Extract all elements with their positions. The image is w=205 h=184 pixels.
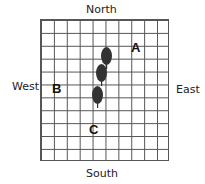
east-label: East bbox=[176, 83, 200, 96]
south-label: South bbox=[86, 167, 118, 180]
point-a: A bbox=[131, 40, 140, 55]
west-label: West bbox=[12, 80, 39, 93]
tree-icon bbox=[91, 86, 104, 108]
tree-icon bbox=[95, 64, 108, 86]
north-label: North bbox=[86, 3, 117, 16]
point-b: B bbox=[52, 81, 61, 96]
point-c: C bbox=[89, 122, 98, 137]
